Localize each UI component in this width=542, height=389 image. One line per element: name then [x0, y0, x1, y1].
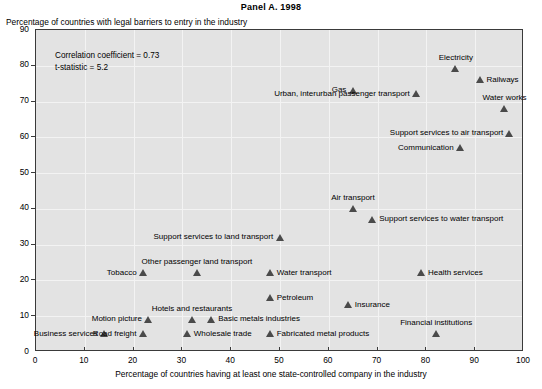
y-tick-mark [31, 172, 35, 173]
data-point-label: Health services [428, 268, 483, 277]
x-tick-label: 60 [313, 355, 343, 365]
gridline-horizontal [36, 173, 522, 174]
x-tick-label: 0 [20, 355, 50, 365]
data-point-label: Support services to air transport [390, 128, 503, 137]
x-tick-label: 30 [166, 355, 196, 365]
panel-title: Panel A. 1998 [0, 2, 542, 12]
gridline-vertical [85, 30, 86, 350]
data-point-label: Fabricated metal products [277, 329, 370, 338]
y-tick-label: 60 [3, 131, 29, 141]
y-tick-mark [31, 244, 35, 245]
x-tick-label: 10 [69, 355, 99, 365]
data-point-label: Urban, interurban passenger transport [274, 89, 410, 98]
y-tick-mark [31, 279, 35, 280]
x-tick-label: 80 [410, 355, 440, 365]
y-tick-label: 80 [3, 59, 29, 69]
x-tick-label: 70 [362, 355, 392, 365]
y-tick-label: 10 [3, 310, 29, 320]
y-tick-label: 30 [3, 238, 29, 248]
data-point-marker [139, 269, 147, 276]
data-point-marker [266, 330, 274, 337]
data-point-label: Tobacco [107, 268, 137, 277]
x-tick-label: 20 [118, 355, 148, 365]
gridline-horizontal [36, 209, 522, 210]
data-point-label: Basic metals industries [218, 314, 300, 323]
y-tick-mark [31, 101, 35, 102]
x-tick-mark [328, 347, 329, 351]
data-point-label: Water transport [277, 268, 332, 277]
gridline-horizontal [36, 280, 522, 281]
data-point-label: Insurance [355, 300, 390, 309]
data-point-marker [349, 205, 357, 212]
data-point-marker [207, 316, 215, 323]
data-point-label: Air transport [331, 193, 375, 202]
gridline-vertical [280, 30, 281, 350]
y-tick-label: 70 [3, 95, 29, 105]
x-tick-label: 40 [215, 355, 245, 365]
data-point-label: Railways [487, 75, 519, 84]
x-tick-mark [425, 347, 426, 351]
t-statistic-text: t-statistic = 5.2 [55, 62, 159, 74]
data-point-marker [183, 330, 191, 337]
y-tick-mark [31, 208, 35, 209]
data-point-marker [505, 130, 513, 137]
x-axis-label: Percentage of countries having at least … [0, 369, 542, 379]
data-point-label: Other passenger land transport [142, 257, 253, 266]
data-point-label: Petroleum [277, 293, 313, 302]
y-tick-mark [31, 315, 35, 316]
data-point-marker [432, 330, 440, 337]
gridline-vertical [182, 30, 183, 350]
data-point-marker [500, 105, 508, 112]
plot-area: ElectricityRailwaysWater worksGasUrban, … [35, 29, 523, 351]
data-point-marker [344, 301, 352, 308]
data-point-label: Financial institutions [400, 318, 472, 327]
y-axis-label: Percentage of countries with legal barri… [6, 17, 247, 27]
x-tick-mark [377, 347, 378, 351]
data-point-label: Business services [34, 329, 98, 338]
y-tick-label: 20 [3, 274, 29, 284]
y-tick-mark [31, 136, 35, 137]
y-tick-label: 50 [3, 167, 29, 177]
correlation-coefficient-text: Correlation coefficient = 0.73 [55, 50, 159, 62]
x-tick-label: 50 [264, 355, 294, 365]
y-tick-mark [31, 65, 35, 66]
gridline-vertical [426, 30, 427, 350]
data-point-marker [139, 330, 147, 337]
data-point-marker [266, 269, 274, 276]
gridline-vertical [231, 30, 232, 350]
data-point-marker [476, 76, 484, 83]
data-point-marker [193, 269, 201, 276]
data-point-label: Wholesale trade [194, 329, 252, 338]
gridline-horizontal [36, 137, 522, 138]
data-point-marker [368, 216, 376, 223]
data-point-label: Support services to water transport [379, 214, 503, 223]
y-tick-label: 0 [3, 346, 29, 356]
data-point-label: Support services to land transport [154, 232, 274, 241]
gridline-horizontal [36, 102, 522, 103]
data-point-label: Hotels and restaurants [152, 304, 233, 313]
y-tick-label: 40 [3, 202, 29, 212]
data-point-marker [456, 144, 464, 151]
data-point-marker [276, 234, 284, 241]
x-tick-mark [230, 347, 231, 351]
x-tick-label: 100 [508, 355, 538, 365]
x-tick-mark [279, 347, 280, 351]
data-point-label: Electricity [439, 53, 473, 62]
x-tick-mark [84, 347, 85, 351]
gridline-horizontal [36, 245, 522, 246]
gridline-vertical [329, 30, 330, 350]
data-point-marker [451, 65, 459, 72]
gridline-vertical [134, 30, 135, 350]
data-point-label: Motion picture [92, 314, 142, 323]
x-tick-mark [474, 347, 475, 351]
y-tick-label: 90 [3, 24, 29, 34]
data-point-marker [412, 90, 420, 97]
x-tick-mark [181, 347, 182, 351]
data-point-marker [266, 294, 274, 301]
data-point-marker [144, 316, 152, 323]
x-tick-mark [133, 347, 134, 351]
data-point-marker [188, 316, 196, 323]
stats-annotation: Correlation coefficient = 0.73 t-statist… [55, 50, 159, 73]
data-point-label: Communication [398, 143, 454, 152]
data-point-label: Water works [482, 93, 526, 102]
